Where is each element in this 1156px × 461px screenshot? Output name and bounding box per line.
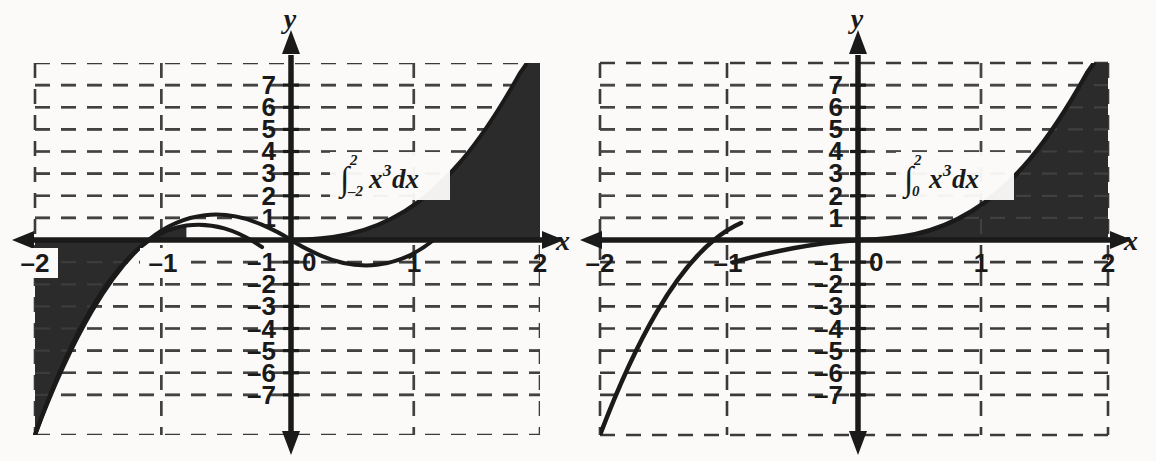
left-xtick-2: 2: [533, 248, 547, 278]
right-xtick-1: 1: [974, 248, 988, 278]
left-xtick-m1: –1: [149, 248, 178, 278]
left-integral-annotation: ∫ 2 –2 x 3 dx: [330, 152, 450, 200]
left-integral-differential: dx: [392, 164, 419, 194]
right-ytick-1: 1: [829, 203, 843, 233]
right-panel: 7 6 5 4 3 2 1 –1 –2 –3 –4 –5 –6 –7 0 –2 …: [578, 0, 1156, 461]
left-origin-label: 0: [302, 247, 316, 277]
right-xtick-2: 2: [1101, 248, 1115, 278]
left-integral-exponent: 3: [382, 161, 392, 180]
right-integral-exponent: 3: [942, 161, 952, 180]
right-axis-label-x: x: [1123, 225, 1138, 256]
right-axis-label-y: y: [848, 3, 864, 34]
left-ytick-1: 1: [262, 203, 276, 233]
left-xtick-1: 1: [407, 248, 421, 278]
figure-two-integral-plots: 7 6 5 4 3 2 1 –1 –2 –3 –4 –5 –6 –7 0 –2: [0, 0, 1156, 461]
right-integral-integrand: x: [928, 164, 943, 194]
left-axis-label-x: x: [555, 225, 570, 256]
left-integral-lower-limit: –2: [347, 183, 364, 199]
left-xtick-m2: –2: [21, 248, 50, 278]
left-integral-upper-limit: 2: [349, 152, 358, 168]
left-ytick-m7: –7: [247, 380, 276, 410]
right-integral-annotation: ∫ 2 0 x 3 dx: [896, 152, 1014, 200]
right-xtick-m2: –2: [586, 248, 615, 278]
right-panel-svg: 7 6 5 4 3 2 1 –1 –2 –3 –4 –5 –6 –7 0 –2 …: [578, 0, 1156, 461]
right-integral-upper-limit: 2: [913, 152, 922, 168]
left-panel-svg: 7 6 5 4 3 2 1 –1 –2 –3 –4 –5 –6 –7 0 –2: [0, 0, 578, 461]
left-panel: 7 6 5 4 3 2 1 –1 –2 –3 –4 –5 –6 –7 0 –2: [0, 0, 578, 461]
left-axis-label-y: y: [281, 3, 297, 34]
left-integral-integrand: x: [368, 164, 383, 194]
right-integral-differential: dx: [952, 164, 979, 194]
right-ytick-m7: –7: [814, 380, 843, 410]
right-origin-label: 0: [869, 247, 883, 277]
right-xtick-m1: –1: [714, 248, 743, 278]
right-integral-lower-limit: 0: [912, 183, 920, 199]
